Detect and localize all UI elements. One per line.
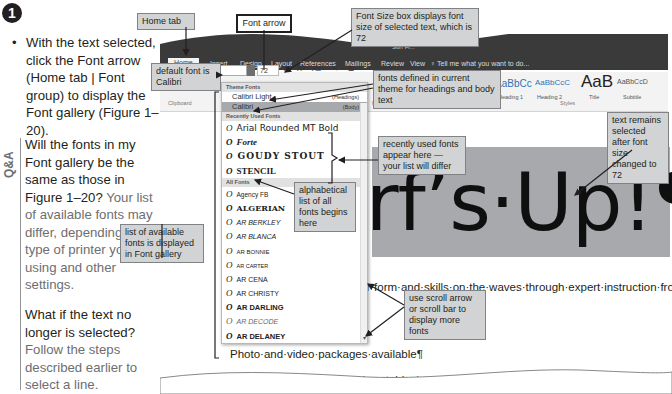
font-item[interactable]: OAR BONNIE [222,244,367,258]
opentype-icon: O [226,246,233,256]
style-title-label: Title [589,94,599,100]
opentype-icon: O [226,137,233,147]
opentype-icon: O [226,316,233,326]
font-arrow-button[interactable] [247,65,255,76]
opentype-icon: O [226,203,233,213]
shrink-font-button[interactable]: A˅ [297,65,306,72]
style-heading1-label: Heading 1 [498,94,523,100]
font-item[interactable]: OAR DELANEY [222,329,367,343]
callout-scroll: use scroll arrow or scroll bar to displa… [404,290,486,340]
font-item[interactable]: OAR CHRISTY [222,286,367,300]
change-case-button[interactable]: Aa [312,65,321,72]
qa-question: What if the text no longer is selected? [25,307,135,340]
callout-theme-fonts: fonts defined in current theme for headi… [373,70,501,109]
callout-home-tab: Home tab [137,13,195,30]
font-item[interactable]: OAR CARTER [222,258,367,272]
tab-view[interactable]: View [410,60,425,67]
callout-font-arrow: Font arrow [236,14,292,33]
callout-font-size-box: Font Size box displays font size of sele… [351,8,479,47]
document-line-2[interactable]: Photo·and·video·packages·available¶ [230,348,423,360]
qa-item-1: Will the fonts in my Font gallery be the… [25,136,165,294]
font-size-box[interactable]: 72 [257,65,279,76]
callout-text-remains: text remains selected after font size ch… [607,112,669,184]
opentype-icon: O [226,217,233,227]
tell-me-box[interactable]: ♀ Tell me what you want to do... [430,60,529,67]
style-title-preview[interactable]: AaB [581,72,613,92]
clipboard-group-label: Clipboard [168,100,192,106]
qa-item-2: What if the text no longer is selected? … [25,306,165,394]
opentype-icon: O [226,231,233,241]
opentype-icon: O [226,260,233,270]
step-instruction: • With the text selected, click the Font… [12,34,160,139]
style-subtitle-preview[interactable]: AaBbCcD [617,78,648,85]
opentype-icon: O [226,123,233,133]
opentype-icon: O [226,302,233,312]
font-item[interactable]: OForte [222,135,367,149]
opentype-icon: O [226,189,233,199]
clear-formatting-icon[interactable]: ✎ [332,65,338,73]
scroll-down-arrow-icon[interactable]: ▾ [363,334,366,341]
font-item[interactable]: OSTENCIL [222,164,367,178]
torn-edge-bottom [160,360,672,394]
style-heading2-label: Heading 2 [537,94,562,100]
theme-font-calibri-light[interactable]: Calibri Light (Headings) [222,92,367,102]
qa-label: Q&A [2,140,16,180]
step-number-badge: 1 [2,3,22,23]
font-item[interactable]: OAR DESTINE [222,343,367,344]
style-subtitle-label: Subtitle [623,94,641,100]
opentype-icon: O [226,151,234,161]
theme-font-calibri[interactable]: Calibri (Body) [222,102,367,112]
font-item[interactable]: OArial Rounded MT Bold [222,121,367,135]
theme-fonts-header: Theme Fonts [222,83,367,92]
step-instruction-text: With the text selected, click the Font a… [12,34,160,139]
opentype-icon: O [226,274,233,284]
font-item[interactable]: OAR DARLING [222,300,367,314]
callout-default-font: default font is Calibri [151,63,221,91]
tab-review[interactable]: Review [381,60,404,67]
gallery-scrollbar[interactable] [360,103,367,343]
recent-fonts-header: Recently Used Fonts [222,112,367,121]
opentype-icon: O [226,166,233,176]
grow-font-button[interactable]: A˄ [284,65,293,72]
bullets-icon[interactable]: ☰ [348,65,354,73]
opentype-icon: O [226,288,233,298]
qa-answer: Follow the steps described earlier to se… [25,342,137,392]
callout-list-available: list of available fonts is displayed in … [120,224,204,263]
bullet-icon: • [12,34,17,52]
qa-divider [20,138,21,390]
font-item[interactable]: OGOUDY STOUT [222,149,367,163]
style-heading2-preview[interactable]: AaBbCcC [535,78,570,87]
callout-alphabetical: alphabetical list of all fonts begins he… [294,182,356,232]
font-item[interactable]: OAR CENA [222,272,367,286]
font-item[interactable]: OAR DECODE [222,314,367,328]
opentype-icon: O [226,331,233,341]
styles-group-label: Styles [560,100,575,106]
callout-recent-fonts: recently used fonts appear here — your l… [378,136,466,175]
